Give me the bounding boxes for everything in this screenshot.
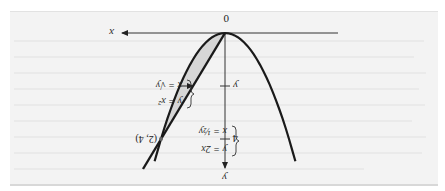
intersection-point: [159, 137, 163, 141]
intersection-label: (2, 4): [135, 133, 157, 145]
origin-label: 0: [223, 13, 229, 25]
y-axis-label: y: [222, 172, 228, 184]
label-line-bottom: x = ½y: [198, 126, 228, 137]
y-tick-label-y: y: [233, 80, 239, 92]
y-tick-label-4: 4: [232, 133, 238, 145]
label-parabola-bottom: x = √y: [155, 80, 183, 91]
label-parabola-top: y = x²: [157, 96, 183, 107]
x-axis-label: x: [109, 27, 115, 39]
graph: x 0 y y 4 y = x² x = √y y = 2x x = ½y (2…: [0, 0, 445, 191]
label-line-top: y = 2x: [201, 144, 228, 155]
